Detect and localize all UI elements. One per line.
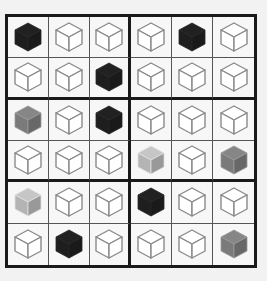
grid-cell[interactable]: [131, 224, 172, 265]
white-cube-icon: [54, 21, 84, 53]
white-cube-icon: [177, 104, 207, 136]
black-cube-icon: [13, 21, 43, 53]
white-cube-icon: [94, 144, 124, 176]
grid-cell[interactable]: [8, 182, 49, 223]
white-cube-icon: [13, 144, 43, 176]
grid-cell[interactable]: [8, 17, 49, 58]
white-cube-icon: [94, 228, 124, 260]
cube-grid: [5, 14, 257, 268]
grid-cell[interactable]: [213, 100, 254, 141]
grid-cell[interactable]: [90, 224, 131, 265]
white-cube-icon: [219, 104, 249, 136]
white-cube-icon: [177, 228, 207, 260]
grid-cell[interactable]: [213, 17, 254, 58]
grid-cell[interactable]: [131, 141, 172, 182]
white-cube-icon: [136, 61, 166, 93]
grid-cell[interactable]: [213, 224, 254, 265]
grid-cell[interactable]: [90, 100, 131, 141]
white-cube-icon: [13, 228, 43, 260]
white-cube-icon: [219, 21, 249, 53]
white-cube-icon: [54, 186, 84, 218]
white-cube-icon: [219, 186, 249, 218]
grid-cell[interactable]: [172, 141, 213, 182]
white-cube-icon: [54, 61, 84, 93]
gray-cube-icon: [219, 144, 249, 176]
grid-cell[interactable]: [8, 224, 49, 265]
white-cube-icon: [219, 61, 249, 93]
white-cube-icon: [177, 61, 207, 93]
grid-cell[interactable]: [213, 182, 254, 223]
black-cube-icon: [54, 228, 84, 260]
grid-cell[interactable]: [49, 224, 90, 265]
black-cube-icon: [136, 186, 166, 218]
white-cube-icon: [94, 186, 124, 218]
grid-cell[interactable]: [131, 17, 172, 58]
grid-cell[interactable]: [213, 58, 254, 99]
white-cube-icon: [177, 144, 207, 176]
grid-cell[interactable]: [90, 58, 131, 99]
white-cube-icon: [136, 104, 166, 136]
grid-cell[interactable]: [131, 100, 172, 141]
grid-cell[interactable]: [172, 17, 213, 58]
grid-cell[interactable]: [90, 17, 131, 58]
grid-cell[interactable]: [213, 141, 254, 182]
grid-cell[interactable]: [131, 182, 172, 223]
grid-cell[interactable]: [49, 17, 90, 58]
white-cube-icon: [94, 21, 124, 53]
grid-cell[interactable]: [172, 224, 213, 265]
white-cube-icon: [54, 144, 84, 176]
grid-cell[interactable]: [49, 182, 90, 223]
black-cube-icon: [94, 61, 124, 93]
grid-cell[interactable]: [90, 182, 131, 223]
white-cube-icon: [136, 21, 166, 53]
grid-cell[interactable]: [172, 58, 213, 99]
grid-cell[interactable]: [172, 100, 213, 141]
white-cube-icon: [54, 104, 84, 136]
grid-cell[interactable]: [49, 100, 90, 141]
grid-cell[interactable]: [131, 58, 172, 99]
grid-cell[interactable]: [49, 58, 90, 99]
black-cube-icon: [94, 104, 124, 136]
grid-cell[interactable]: [172, 182, 213, 223]
white-cube-icon: [136, 228, 166, 260]
light-gray-cube-icon: [136, 144, 166, 176]
grid-cell[interactable]: [8, 100, 49, 141]
white-cube-icon: [13, 61, 43, 93]
gray-cube-icon: [219, 228, 249, 260]
grid-cell[interactable]: [49, 141, 90, 182]
grid-cell[interactable]: [8, 141, 49, 182]
black-cube-icon: [177, 21, 207, 53]
grid-cell[interactable]: [8, 58, 49, 99]
white-cube-icon: [177, 186, 207, 218]
light-gray-cube-icon: [13, 186, 43, 218]
gray-cube-icon: [13, 104, 43, 136]
grid-cell[interactable]: [90, 141, 131, 182]
